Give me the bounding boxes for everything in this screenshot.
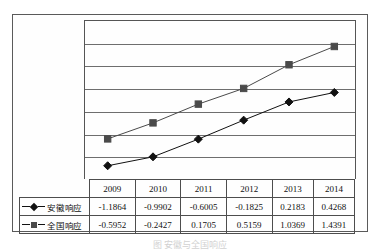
table-cell: 1.4391 [313, 216, 354, 234]
data-table: 2009 2010 2011 2012 2013 2014 安徽响应 -1.18… [19, 179, 355, 234]
square-marker-icon [195, 101, 201, 107]
diamond-marker-icon [194, 135, 202, 143]
diamond-marker-icon [240, 116, 248, 124]
table-row: 安徽响应 -1.1864 -0.9902 -0.6005 -0.1825 0.2… [20, 198, 355, 216]
table-cell: 0.2183 [272, 198, 313, 216]
table-header-row: 2009 2010 2011 2012 2013 2014 [20, 180, 355, 198]
series-line [108, 46, 335, 138]
table-cell: -1.1864 [90, 198, 136, 216]
table-cell: 1.0369 [272, 216, 313, 234]
table-cell: -0.2427 [135, 216, 181, 234]
table-cell: -0.9902 [135, 198, 181, 216]
square-marker-icon [150, 120, 156, 126]
table-corner-cell [20, 180, 90, 198]
table-cell: -0.5952 [90, 216, 136, 234]
diamond-marker-icon [149, 153, 157, 161]
table-cell: 0.1705 [181, 216, 227, 234]
table-cell: 0.5159 [226, 216, 272, 234]
diamond-marker-icon [104, 162, 112, 170]
legend-label: 全国响应 [46, 219, 82, 231]
legend-line-icon [38, 224, 45, 225]
chart-figure: 2 1.5 1 0.5 0 -0.5 -1 -1.5 2009 2010 201… [0, 0, 380, 252]
table-col-header: 2010 [135, 180, 181, 198]
table-col-header: 2013 [272, 180, 313, 198]
plot-area [84, 20, 356, 179]
diamond-marker-icon [330, 88, 338, 96]
table-row: 全国响应 -0.5952 -0.2427 0.1705 0.5159 1.036… [20, 216, 355, 234]
legend-line-icon [38, 206, 45, 207]
series-line [108, 92, 335, 165]
square-marker-icon [240, 85, 246, 91]
table-col-header: 2011 [181, 180, 227, 198]
table-cell: -0.1825 [226, 198, 272, 216]
table-col-header: 2014 [313, 180, 354, 198]
square-icon [31, 222, 37, 228]
square-marker-icon [331, 43, 337, 49]
table-cell: -0.6005 [181, 198, 227, 216]
table-col-header: 2012 [226, 180, 272, 198]
diamond-marker-icon [285, 98, 293, 106]
diamond-icon [30, 202, 38, 210]
table-cell: 0.4268 [313, 198, 354, 216]
legend-label: 安徽响应 [46, 201, 82, 213]
legend-line-icon [22, 224, 30, 225]
legend-item-anhui: 安徽响应 [20, 198, 90, 216]
series-plot [85, 21, 357, 180]
legend-item-national: 全国响应 [20, 216, 90, 234]
square-marker-icon [286, 62, 292, 68]
square-marker-icon [104, 136, 110, 142]
figure-caption: 图 安徽与全国响应 [0, 238, 380, 251]
table-col-header: 2009 [90, 180, 136, 198]
